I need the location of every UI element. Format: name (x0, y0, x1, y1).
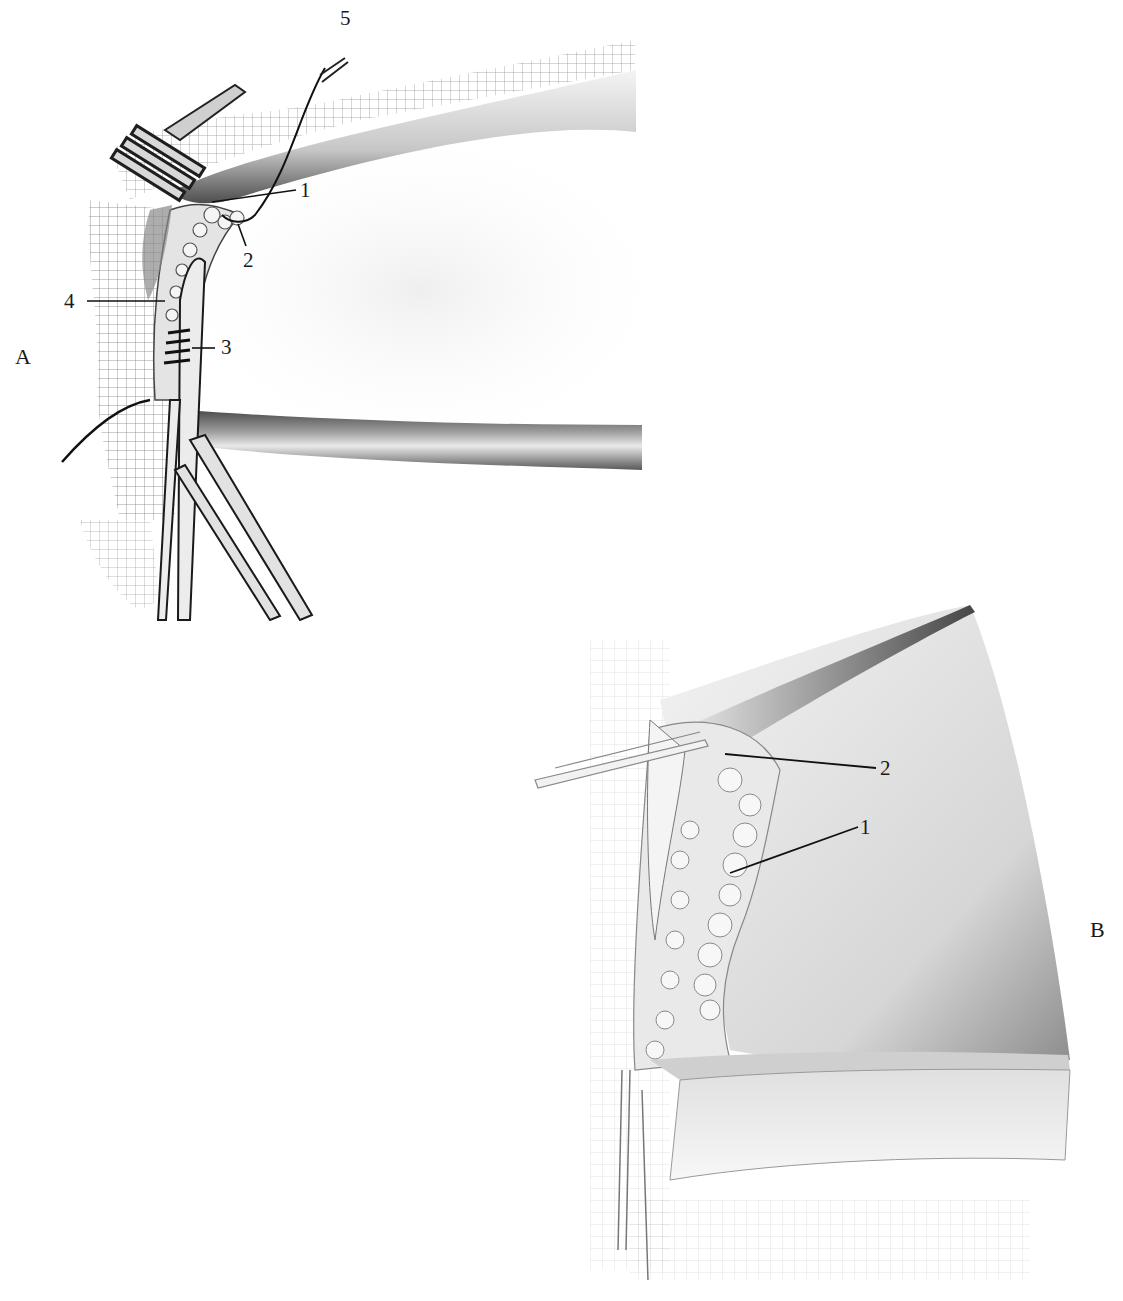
callout-label-1: 1 (860, 817, 871, 838)
panel-a: 1 2 3 4 5 (0, 0, 660, 640)
panel-letter-a: A (15, 344, 31, 370)
callout-label-2: 2 (243, 250, 254, 271)
panel-b: 2 1 (530, 600, 1090, 1301)
panel-letter-b: B (1090, 917, 1105, 943)
callout-label-2: 2 (880, 758, 891, 779)
callout-label-5: 5 (340, 8, 351, 29)
callout-label-1: 1 (300, 180, 311, 201)
callout-label-3: 3 (221, 337, 232, 358)
panel-b-illustration (530, 600, 1090, 1301)
panel-a-illustration (0, 0, 660, 640)
callout-label-4: 4 (64, 291, 75, 312)
cavity-shading (200, 150, 640, 430)
